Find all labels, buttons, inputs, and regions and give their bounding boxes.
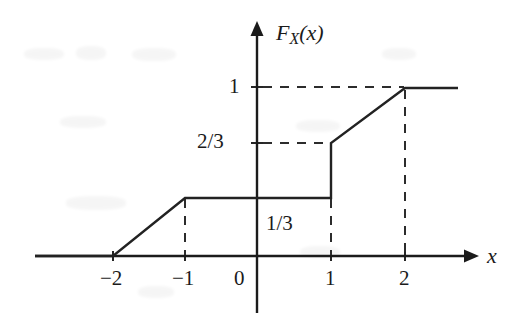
figure-canvas: FX(x) x 1 2/3 −2 −1 0 1 2 1/3 <box>0 0 521 327</box>
y-tick-label-1: 1 <box>229 76 240 97</box>
y-axis-label-subscript: X <box>289 30 299 47</box>
annotation-one-third: 1/3 <box>266 213 293 234</box>
cdf-plot <box>0 0 521 327</box>
x-tick-label-2: 2 <box>399 268 410 289</box>
x-tick-label-neg2: −2 <box>100 268 122 289</box>
x-tick-label-0: 0 <box>234 268 245 289</box>
x-axis-label: x <box>487 245 497 267</box>
x-tick-label-1: 1 <box>325 268 336 289</box>
y-tick-label-two-thirds: 2/3 <box>197 131 224 152</box>
cdf-curve <box>35 88 458 256</box>
x-tick-label-neg1: −1 <box>172 268 194 289</box>
y-axis-label: FX(x) <box>276 22 324 47</box>
y-axis-label-argument: (x) <box>299 20 323 45</box>
y-axis-arrowhead <box>251 21 264 36</box>
y-axis-label-F: F <box>276 20 289 45</box>
x-axis-arrowhead <box>464 250 479 263</box>
